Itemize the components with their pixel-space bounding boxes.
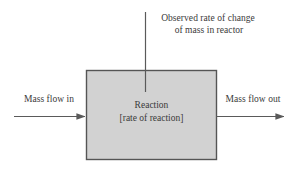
mass-flow-out-label: Mass flow out: [215, 94, 291, 106]
observed-rate-label-line2: of mass in reactor: [147, 25, 269, 37]
reactor-box-label-line1: Reaction: [86, 99, 217, 112]
observed-rate-label-line1: Observed rate of change: [147, 13, 269, 25]
process-block-diagram: Observed rate of change of mass in react…: [0, 0, 295, 172]
reactor-box-label-line2: [rate of reaction]: [86, 112, 217, 125]
mass-flow-in-label: Mass flow in: [12, 94, 86, 106]
observed-rate-label: Observed rate of change of mass in react…: [147, 13, 269, 36]
reactor-box-label: Reaction [rate of reaction]: [86, 99, 217, 124]
